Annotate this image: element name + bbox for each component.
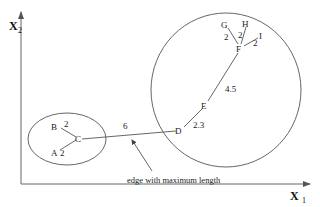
annotation-arrow: [132, 140, 152, 171]
weight-a-c: 2: [60, 148, 65, 158]
x-axis-label: X: [290, 189, 299, 203]
edge-c-d: [82, 131, 176, 139]
weight-c-d: 6: [123, 121, 128, 131]
node-b: B: [51, 122, 57, 132]
weight-e-f: 4.5: [225, 84, 237, 94]
x-axis-subscript: 1: [302, 196, 306, 205]
node-d: D: [175, 126, 182, 136]
weight-f-h: 2: [238, 30, 243, 40]
node-g: G: [221, 20, 228, 30]
annotation-text: edge with maximum length: [127, 175, 221, 185]
weight-d-e: 2.3: [193, 120, 205, 130]
y-axis-subscript: 2: [18, 26, 22, 35]
node-c: C: [75, 134, 81, 144]
node-e: E: [201, 101, 207, 111]
edge-b-c: [61, 128, 76, 137]
node-i: I: [259, 31, 262, 41]
node-f: F: [236, 44, 241, 54]
y-axis-label: X: [9, 19, 18, 33]
weight-b-c: 2: [64, 119, 69, 129]
weight-f-g: 2: [224, 32, 229, 42]
weight-f-i: 2: [253, 38, 258, 48]
mst-diagram: X 2 X 1 2 2 6 2.3 4.5 2 2 2 B C A D E F …: [0, 0, 320, 207]
edge-f-g: [228, 28, 238, 44]
node-a: A: [51, 148, 58, 158]
node-h: H: [242, 19, 249, 29]
